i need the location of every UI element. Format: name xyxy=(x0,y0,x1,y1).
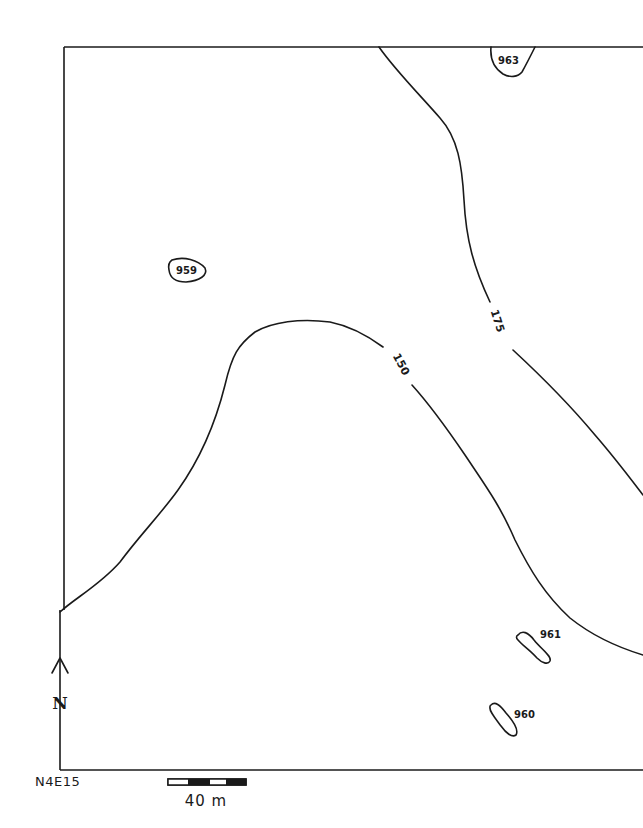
contour-175-line-upper xyxy=(379,47,490,302)
contour-150-label: 150 xyxy=(390,351,412,378)
feature-961: 961 xyxy=(517,629,561,663)
feature-963-label: 963 xyxy=(498,55,519,66)
feature-960-outline xyxy=(490,703,517,735)
scale-bar: 40 m xyxy=(168,779,246,810)
map-frame xyxy=(60,47,643,770)
contour-150-line-left xyxy=(60,320,383,612)
scale-bar-segment-2 xyxy=(188,779,210,785)
feature-961-label: 961 xyxy=(540,629,561,640)
feature-959-label: 959 xyxy=(176,265,197,276)
contour-map: 175 150 963 959 961 960 N N4E15 xyxy=(0,0,643,828)
contour-150: 150 xyxy=(60,320,643,655)
feature-960: 960 xyxy=(490,703,535,735)
scale-bar-segment-4 xyxy=(226,779,246,785)
scale-bar-label: 40 m xyxy=(185,792,227,810)
scale-bar-segment-1 xyxy=(168,779,188,785)
north-label: N xyxy=(52,693,68,713)
contour-175: 175 xyxy=(379,47,643,495)
contour-175-line-lower xyxy=(513,350,643,495)
scale-bar-segment-3 xyxy=(210,779,226,785)
feature-960-label: 960 xyxy=(514,709,535,720)
frame-corner-label: N4E15 xyxy=(35,774,80,789)
feature-963: 963 xyxy=(491,47,535,76)
contour-150-line-right xyxy=(412,385,643,655)
contour-175-label: 175 xyxy=(488,308,507,334)
feature-959: 959 xyxy=(169,258,206,282)
